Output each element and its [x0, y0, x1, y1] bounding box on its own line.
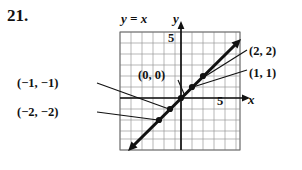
point-label-neg-one: (−1, −1): [17, 76, 58, 91]
point-label-one-one: (1, 1): [249, 66, 276, 81]
y-axis-tick-label-5: 5: [168, 31, 174, 46]
point-label-neg-two: (−2, −2): [17, 105, 58, 120]
point-label-origin: (0, 0): [138, 68, 165, 83]
point-0-0: [178, 95, 184, 101]
point-label-two-two: (2, 2): [249, 44, 276, 59]
x-axis-tick-label-5: 5: [217, 94, 223, 109]
y-axis-label: y: [173, 11, 179, 27]
problem-number: 21.: [7, 6, 28, 26]
x-axis-label: x: [248, 92, 255, 108]
equation-label: y = x: [121, 11, 147, 27]
